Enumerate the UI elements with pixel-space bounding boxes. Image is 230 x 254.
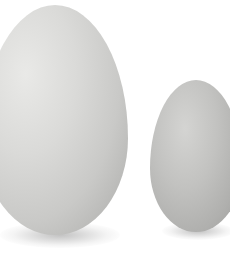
small-egg: [150, 80, 230, 232]
large-egg: [0, 5, 128, 235]
photo-scene: Two white eggs side by side on a white b…: [0, 0, 230, 254]
